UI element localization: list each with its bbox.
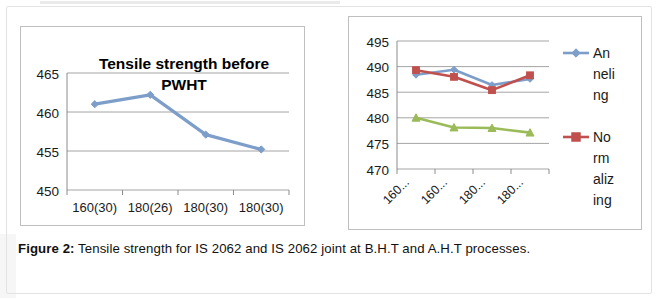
legend-label-line: neli [593, 66, 615, 82]
legend-label-line: aliz [593, 171, 614, 187]
data-point-marker [451, 66, 458, 73]
scan-artifact-left [0, 234, 16, 298]
chart-right: 470475480485490495160...160...180...180.… [348, 16, 642, 230]
legend-label-line: No [593, 129, 611, 145]
x-axis-tick-label: 180... [494, 175, 526, 207]
figure-caption-text: Tensile strength for IS 2062 and IS 2062… [75, 241, 531, 256]
x-axis-tick-label: 180(30) [183, 200, 228, 215]
chart-title-line1: Tensile strength before [99, 55, 270, 72]
chart-left-svg: 450455460465160(30)180(26)180(30)180(30)… [21, 27, 304, 225]
data-point-marker [258, 146, 265, 153]
legend-label-line: An [593, 45, 610, 61]
data-point-marker [527, 72, 534, 79]
y-axis-tick-label: 455 [36, 145, 59, 160]
data-point-marker [572, 133, 580, 141]
series-line [416, 70, 530, 90]
chart-legend: AnnelingNormalizing [563, 45, 615, 208]
x-axis-tick-label: 180(26) [128, 200, 173, 215]
charts-row: 450455460465160(30)180(26)180(30)180(30)… [0, 0, 658, 232]
y-axis-tick-label: 490 [366, 60, 389, 75]
data-point-marker [489, 87, 496, 94]
data-point-marker [413, 67, 420, 74]
x-axis-tick-label: 180(30) [239, 200, 284, 215]
figure-caption-label: Figure 2: [18, 241, 75, 256]
x-axis-tick-label: 180... [456, 175, 488, 207]
data-point-marker [451, 73, 458, 80]
chart-title-line2: PWHT [161, 76, 207, 93]
legend-label-line: ng [593, 87, 609, 103]
figure-container: 450455460465160(30)180(26)180(30)180(30)… [0, 0, 658, 300]
y-axis-tick-label: 475 [366, 137, 389, 152]
x-axis-tick-label: 160(30) [72, 200, 117, 215]
x-axis-tick-label: 160... [418, 175, 450, 207]
data-point-marker [572, 49, 580, 57]
data-point-marker [91, 101, 98, 108]
series-line [95, 95, 262, 150]
y-axis-tick-label: 480 [366, 111, 389, 126]
y-axis-tick-label: 470 [366, 163, 389, 178]
y-axis-tick-label: 450 [36, 184, 59, 199]
y-axis-tick-label: 460 [36, 106, 59, 121]
chart-right-svg: 470475480485490495160...160...180...180.… [349, 17, 641, 229]
y-axis-tick-label: 465 [36, 67, 59, 82]
chart-left: 450455460465160(30)180(26)180(30)180(30)… [20, 26, 305, 226]
y-axis-tick-label: 485 [366, 86, 389, 101]
series-line [416, 118, 530, 133]
x-axis-tick-label: 160... [380, 175, 412, 207]
figure-caption: Figure 2: Tensile strength for IS 2062 a… [18, 240, 638, 259]
y-axis-tick-label: 495 [366, 35, 389, 50]
legend-label-line: rm [593, 150, 609, 166]
plot-area [397, 41, 549, 174]
legend-label-line: ing [593, 192, 612, 208]
